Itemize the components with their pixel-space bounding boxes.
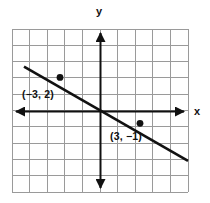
data-point-a [57, 74, 64, 81]
y-axis-label: y [96, 6, 102, 17]
data-point-b [137, 120, 144, 127]
x-axis-label: x [194, 106, 200, 117]
plotted-line [24, 67, 188, 161]
point-a-coordinate-label: (−3, 2) [22, 89, 54, 100]
graph-canvas [0, 0, 210, 203]
coordinate-plane-figure: y x (−3, 2) (3, −1) [0, 0, 210, 203]
point-b-coordinate-label: (3, −1) [110, 131, 142, 142]
